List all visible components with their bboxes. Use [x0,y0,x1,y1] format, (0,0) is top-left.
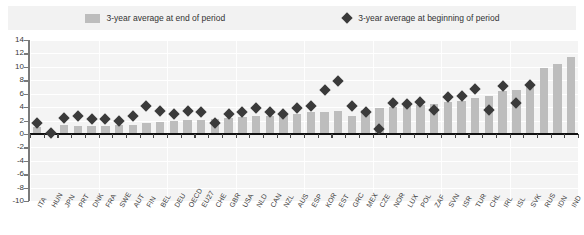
x-tick [126,134,127,138]
vertical-gridline [99,40,100,201]
diamond-GRC [346,101,357,112]
y-tick-label: -10 [12,197,24,205]
x-tick [455,134,456,138]
diamond-FIN [141,100,152,111]
x-tick [290,134,291,138]
x-tick [318,134,319,138]
legend-label-bar: 3-year average at end of period [107,13,226,23]
x-tick [359,134,360,138]
bar-TUR [471,98,479,134]
bar-BEL [156,122,164,134]
square-swatch-icon [85,14,100,23]
x-tick [153,134,154,138]
y-tick [24,53,29,54]
bar-RUS [540,68,548,134]
bar-SVN [444,102,452,134]
chart-legend: 3-year average at end of period 3-year a… [8,6,576,30]
vertical-gridline [167,40,168,201]
x-tick [263,134,264,138]
x-tick [249,134,250,138]
y-tick [24,40,29,41]
bar-DEU [170,121,178,134]
diamond-HUN [45,127,56,138]
chart-root: 3-year average at end of period 3-year a… [0,0,584,235]
bar-SVK [526,85,534,134]
bar-POL [416,105,424,134]
x-tick [222,134,223,138]
x-tick [496,134,497,138]
y-tick [24,161,29,162]
x-tick [482,134,483,138]
diamond-DNK [86,113,97,124]
diamond-DEU [168,108,179,119]
diamond-EST [333,75,344,86]
x-tick [99,134,100,138]
bar-OECD [183,120,191,134]
x-tick [236,134,237,138]
diamond-EU27 [196,107,207,118]
x-tick [537,134,538,138]
y-tick-label: -2 [17,143,24,151]
x-tick [400,134,401,138]
plot-area [30,40,578,201]
y-tick-label: -4 [17,157,24,165]
bar-EST [334,111,342,134]
x-tick [373,134,374,138]
bar-NOR [389,107,397,134]
x-tick [414,134,415,138]
y-tick [24,80,29,81]
x-tick [277,134,278,138]
legend-item-diamond: 3-year average at beginning of period [343,13,499,23]
x-tick [523,134,524,138]
x-tick [386,134,387,138]
x-tick [304,134,305,138]
y-tick [24,147,29,148]
x-tick [167,134,168,138]
y-tick [24,107,29,108]
bar-GRC [348,116,356,133]
bar-ISR [457,101,465,134]
x-tick [345,134,346,138]
vertical-gridline [510,40,511,201]
bar-CAN [266,116,274,134]
y-tick [24,121,29,122]
legend-item-bar: 3-year average at end of period [85,13,226,23]
y-tick [24,134,29,135]
vertical-gridline [441,40,442,201]
y-tick-label: -6 [17,170,24,178]
diamond-AUS [291,103,302,114]
vertical-gridline [236,40,237,201]
y-tick [24,188,29,189]
x-tick [112,134,113,138]
y-tick-label: 14 [15,36,24,44]
bar-AUS [293,114,301,134]
y-tick-label: 12 [15,49,24,57]
y-tick [24,94,29,95]
bar-EU27 [197,120,205,134]
x-tick [30,134,31,138]
x-tick [331,134,332,138]
x-tick [551,134,552,138]
vertical-gridline [304,40,305,201]
x-tick [510,134,511,138]
x-tick [44,134,45,138]
diamond-FRA [100,113,111,124]
x-tick [564,134,565,138]
diamond-NLD [250,102,261,113]
x-tick [85,134,86,138]
x-tick [427,134,428,138]
x-tick [578,134,579,138]
bar-IDN [553,64,561,134]
vertical-gridline [30,40,31,201]
x-tick [71,134,72,138]
x-tick [140,134,141,138]
bar-KOR [320,112,328,134]
x-tick [441,134,442,138]
legend-label-diamond: 3-year average at beginning of period [358,13,499,23]
vertical-gridline [578,40,579,201]
bar-IRL [498,91,506,134]
bar-LUX [403,106,411,134]
bar-IND [567,57,575,133]
x-tick [57,134,58,138]
bar-USA [238,117,246,134]
